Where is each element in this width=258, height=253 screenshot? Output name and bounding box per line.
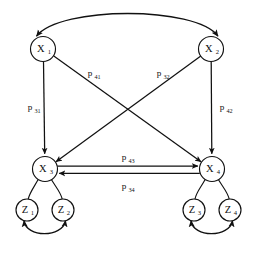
path-label-p42-sub: 42 <box>227 107 233 114</box>
node-x1-label: X <box>37 43 45 54</box>
edge-x2-to-x4-line <box>211 62 212 154</box>
node-x3-label: X <box>39 163 47 174</box>
edge-x1-to-x3-line <box>44 62 45 154</box>
correlation-arc-z3-z4 <box>191 221 233 234</box>
path-label-p41: p 41 <box>88 68 101 80</box>
node-z1[interactable]: Z 1 <box>16 199 38 221</box>
node-x1-subscript: 1 <box>48 48 51 55</box>
node-x4[interactable]: X 4 <box>200 157 225 182</box>
path-diagram-canvas: X 1 X 2 X 3 X 4 Z 1 Z 2 <box>0 0 258 253</box>
measurement-link-x4-z4 <box>219 180 230 199</box>
node-x2[interactable]: X 2 <box>199 37 224 62</box>
node-z1-subscript: 1 <box>31 209 34 216</box>
node-z3-label: Z <box>189 204 196 215</box>
correlation-arc-z1-z2 <box>24 221 66 234</box>
edge-x2-to-x4 <box>211 62 212 154</box>
measurement-link-x4-z3 <box>195 180 205 199</box>
path-label-p34-base: p <box>122 181 127 191</box>
correlation-arc-x1-x2-path <box>37 14 219 37</box>
path-label-p41-base: p <box>88 68 93 78</box>
measurement-links-x4 <box>195 180 229 199</box>
path-label-p31: p 31 <box>28 102 41 114</box>
node-z2[interactable]: Z 2 <box>52 199 74 221</box>
path-label-p32: p 32 <box>157 68 170 80</box>
node-x3[interactable]: X 3 <box>33 157 58 182</box>
path-diagram-svg: X 1 X 2 X 3 X 4 Z 1 Z 2 <box>0 0 258 253</box>
measurement-link-x3-z2 <box>52 180 63 199</box>
node-x4-label: X <box>206 163 214 174</box>
node-x2-subscript: 2 <box>216 48 219 55</box>
measurement-link-x3-z1 <box>28 180 38 199</box>
correlation-arc-x1-x2 <box>37 14 219 37</box>
path-label-p34: p 34 <box>122 181 135 193</box>
correlation-arc-z3-z4-path <box>191 221 233 234</box>
path-label-p43-base: p <box>122 152 127 162</box>
node-z3[interactable]: Z 3 <box>183 199 205 221</box>
path-label-p31-sub: 31 <box>35 107 41 114</box>
correlation-arc-z1-z2-path <box>24 221 66 234</box>
node-x2-label: X <box>205 43 213 54</box>
node-z2-label: Z <box>58 204 65 215</box>
node-z1-label: Z <box>22 204 29 215</box>
path-label-p42-base: p <box>220 102 225 112</box>
path-label-p43: p 43 <box>122 152 135 164</box>
path-label-p41-sub: 41 <box>95 73 101 80</box>
node-z4-label: Z <box>225 204 232 215</box>
path-label-p32-sub: 32 <box>164 73 170 80</box>
node-x1[interactable]: X 1 <box>31 37 56 62</box>
node-z4[interactable]: Z 4 <box>219 199 241 221</box>
path-label-p34-sub: 34 <box>129 186 135 193</box>
edge-x1-to-x3 <box>44 62 45 154</box>
measurement-links-x3 <box>28 180 62 199</box>
path-label-p43-sub: 43 <box>129 157 135 164</box>
path-label-p32-base: p <box>157 68 162 78</box>
path-label-p42: p 42 <box>220 102 233 114</box>
path-label-p31-base: p <box>28 102 33 112</box>
node-z2-subscript: 2 <box>67 209 70 216</box>
